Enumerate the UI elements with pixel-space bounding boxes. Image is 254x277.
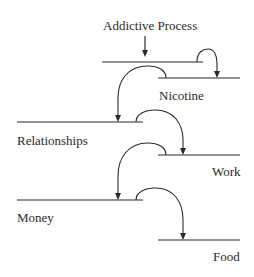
arrowhead-food <box>180 233 186 240</box>
title-addictive-process: Addictive Process <box>103 18 197 33</box>
addictive-process-diagram: Addictive Process Nicotine Relationships… <box>0 0 254 277</box>
label-work: Work <box>212 164 241 179</box>
arrowhead-relationships <box>115 115 121 122</box>
label-nicotine: Nicotine <box>159 88 204 103</box>
arc-work-to-money <box>118 143 166 194</box>
arrowhead-work <box>180 148 186 155</box>
arrowhead-title <box>142 50 148 57</box>
arrowhead-nicotine <box>214 71 220 78</box>
label-relationships: Relationships <box>17 133 88 148</box>
arc-money-to-food <box>136 188 183 234</box>
label-food: Food <box>213 249 240 264</box>
arrowhead-money <box>115 193 121 200</box>
arc-process-to-nicotine <box>197 49 217 72</box>
label-money: Money <box>17 210 54 225</box>
